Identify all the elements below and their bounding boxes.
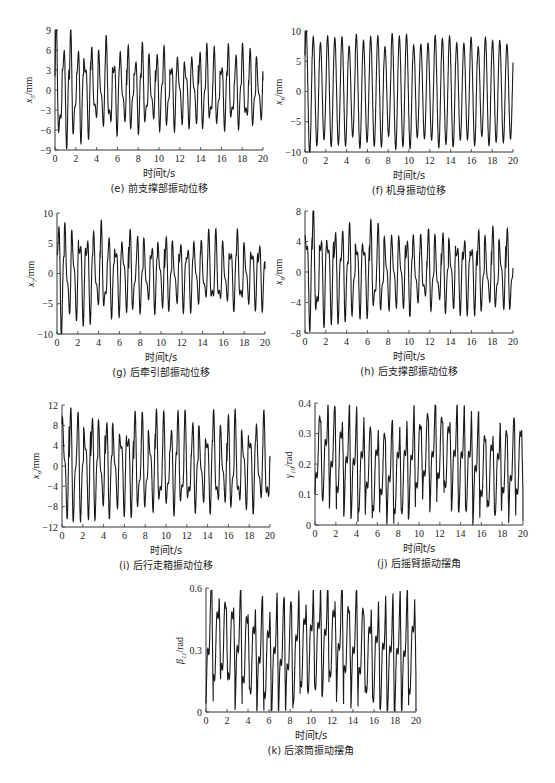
x-tick-label: 10: [404, 155, 414, 166]
y-tick-label: 12: [48, 400, 58, 411]
x-tick-label: 2: [333, 528, 338, 539]
y-tick-label: 5: [296, 56, 301, 67]
x-tick-label: 10: [306, 715, 316, 726]
y-axis-label: x7/mm: [25, 260, 39, 286]
x-tick-label: 20: [258, 153, 268, 164]
data-series: [206, 591, 416, 711]
data-series: [315, 405, 523, 523]
x-tick-label: 18: [487, 155, 497, 166]
y-axis-label: γ10/rad: [283, 451, 297, 478]
chart-k: 0246810121416182000.30.6: [190, 583, 422, 727]
x-tick-label: 0: [53, 153, 58, 164]
x-tick-label: 8: [136, 153, 141, 164]
x-tick-label: 8: [386, 336, 391, 347]
y-tick-label: 0: [296, 267, 301, 278]
x-tick-label: 8: [138, 337, 143, 348]
panel-caption: (h) 后支撑部振动位移: [360, 363, 457, 378]
x-tick-label: 12: [425, 336, 435, 347]
y-tick-label: 8: [296, 206, 301, 217]
x-tick-label: 6: [115, 153, 120, 164]
y-tick-label: 10: [291, 26, 301, 37]
x-tick-label: 4: [344, 336, 349, 347]
panel-caption: (g) 后牵引部振动位移: [112, 364, 209, 379]
x-tick-label: 16: [476, 528, 486, 539]
x-tick-label: 14: [348, 715, 358, 726]
x-tick-label: 0: [303, 336, 308, 347]
x-tick-label: 2: [225, 715, 230, 726]
x-tick-label: 16: [223, 530, 233, 541]
x-tick-label: 14: [446, 155, 456, 166]
x-tick-label: 12: [327, 715, 337, 726]
x-axis-label: 时间t/s: [393, 167, 426, 182]
x-tick-label: 4: [344, 155, 349, 166]
x-tick-label: 20: [265, 530, 275, 541]
x-tick-label: 12: [175, 153, 185, 164]
x-tick-label: 12: [435, 528, 445, 539]
x-tick-label: 2: [80, 530, 85, 541]
y-tick-label: −5: [290, 116, 301, 127]
axes: [315, 403, 523, 525]
x-tick-label: 4: [101, 530, 106, 541]
data-series: [305, 31, 513, 152]
panel-caption: (k) 后滚筒振动摆角: [268, 742, 355, 757]
panel-caption: (e) 前支撑部振动位移: [110, 180, 207, 195]
x-tick-label: 20: [508, 155, 518, 166]
x-axis-label: 时间t/s: [143, 165, 176, 180]
figure-canvas: 02468101214161820−9−6−303690246810121416…: [0, 0, 555, 783]
x-tick-label: 6: [117, 337, 122, 348]
x-tick-label: 16: [369, 715, 379, 726]
x-tick-label: 4: [354, 528, 359, 539]
x-tick-label: 4: [96, 337, 101, 348]
y-tick-label: 0: [46, 85, 51, 96]
x-tick-label: 6: [365, 336, 370, 347]
chart-g: 02468101214161820−10−50510: [37, 208, 270, 349]
x-tick-label: 10: [156, 337, 166, 348]
y-tick-label: −9: [40, 145, 51, 156]
y-tick-label: −8: [47, 501, 58, 512]
x-tick-label: 18: [239, 337, 249, 348]
x-tick-label: 14: [198, 337, 208, 348]
x-tick-label: 8: [386, 155, 391, 166]
y-axis-label: x8/mm: [273, 259, 287, 285]
x-tick-label: 16: [466, 155, 476, 166]
y-axis-label: x9/mm: [30, 453, 44, 479]
y-tick-label: −4: [290, 297, 301, 308]
x-axis-label: 时间t/s: [145, 349, 178, 364]
y-tick-label: 0.2: [299, 459, 312, 470]
x-tick-label: 0: [303, 155, 308, 166]
x-tick-label: 12: [182, 530, 192, 541]
data-series: [62, 408, 270, 522]
y-tick-label: 0.3: [299, 428, 312, 439]
x-axis-label: 时间t/s: [150, 542, 183, 557]
x-tick-label: 6: [267, 715, 272, 726]
x-tick-label: 18: [487, 336, 497, 347]
x-tick-label: 2: [73, 153, 78, 164]
y-tick-label: −6: [40, 125, 51, 136]
data-series: [57, 220, 265, 334]
y-tick-label: −3: [40, 105, 51, 116]
y-tick-label: 0: [197, 707, 202, 718]
y-axis-label: x6/mm: [273, 78, 287, 104]
y-tick-label: 0: [48, 268, 53, 279]
x-tick-label: 8: [288, 715, 293, 726]
x-tick-label: 14: [446, 336, 456, 347]
x-tick-label: 14: [196, 153, 206, 164]
panel-caption: (f) 机身振动位移: [372, 182, 447, 197]
panel-caption: (j) 后摇臂振动摆角: [377, 555, 461, 570]
y-axis-label: β11/rad: [174, 636, 188, 663]
x-tick-label: 2: [323, 336, 328, 347]
x-tick-label: 4: [94, 153, 99, 164]
y-tick-label: 4: [53, 440, 58, 451]
chart-e: 02468101214161820−9−6−30369: [40, 25, 268, 165]
y-tick-label: 0.6: [190, 583, 203, 594]
x-tick-label: 20: [411, 715, 421, 726]
x-tick-label: 18: [390, 715, 400, 726]
x-tick-label: 18: [497, 528, 507, 539]
x-tick-label: 8: [396, 528, 401, 539]
x-tick-label: 14: [456, 528, 466, 539]
y-tick-label: 0: [306, 520, 311, 531]
data-series: [55, 30, 263, 149]
y-tick-label: 10: [43, 208, 53, 219]
x-tick-label: 6: [122, 530, 127, 541]
x-tick-label: 14: [203, 530, 213, 541]
